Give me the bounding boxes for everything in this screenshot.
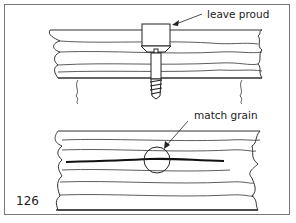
screw-shank	[151, 53, 161, 79]
leave-proud-callout: leave proud	[172, 8, 269, 26]
bottom-board	[55, 131, 260, 210]
figure-number: 126	[16, 194, 39, 208]
plug	[142, 24, 170, 46]
match-grain-label: match grain	[194, 109, 258, 121]
leave-proud-label: leave proud	[207, 8, 269, 20]
screw-with-plug	[141, 24, 171, 99]
match-grain-callout: match grain	[164, 109, 258, 149]
illustration: leave proud match grain 126	[0, 0, 296, 223]
